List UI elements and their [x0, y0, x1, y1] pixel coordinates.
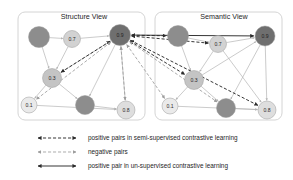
node-label: 0.8: [263, 107, 270, 113]
graph-node-m-01: 0.1: [162, 98, 178, 114]
node-label: 0.1: [166, 103, 173, 109]
graph-node-m-07: 0.7: [210, 36, 227, 53]
node-label: 0.7: [214, 41, 221, 47]
node-label: 0.9: [261, 33, 268, 39]
graph-node-s-03: 0.3: [43, 69, 62, 88]
legend-label: negative pairs: [88, 148, 128, 156]
graph-node-s-dark-bot: [76, 96, 95, 115]
legend: positive pairs in semi-supervised contra…: [38, 134, 238, 170]
graph-node-m-08: 0.8: [258, 101, 276, 119]
node-label: 0.1: [25, 102, 32, 108]
node-label: 0.7: [68, 36, 75, 42]
node-label: 0.3: [190, 77, 197, 83]
node-label: 0.3: [48, 75, 55, 81]
node-label: 0.8: [122, 107, 129, 113]
graph-node-m-dark-top: [168, 26, 189, 47]
graph-node-m-09: 0.9: [255, 26, 275, 46]
graph-node-s-01: 0.1: [21, 97, 37, 113]
graph-node-s-dark-top: [29, 27, 50, 48]
node-circle: [76, 96, 95, 115]
node-circle: [217, 99, 236, 118]
legend-semi-supervised: positive pairs in semi-supervised contra…: [38, 134, 238, 142]
node-circle: [168, 26, 189, 47]
contrastive-learning-diagram: Structure ViewSemantic View 0.70.90.30.1…: [0, 0, 293, 180]
legend-label: positive pair in un-supervised contrasti…: [88, 162, 228, 170]
node-circle: [29, 27, 50, 48]
legend-un-supervised: positive pair in un-supervised contrasti…: [38, 162, 228, 170]
graph-node-m-03: 0.3: [185, 71, 204, 90]
graph-node-s-09: 0.9: [110, 25, 131, 46]
panels-layer: Structure ViewSemantic View: [18, 12, 282, 120]
figure-stage: Structure ViewSemantic View 0.70.90.30.1…: [0, 0, 293, 180]
graph-node-s-08: 0.8: [117, 101, 135, 119]
graph-node-m-dark-bot: [217, 99, 236, 118]
graph-node-s-07: 0.7: [64, 31, 81, 48]
panel-title: Structure View: [61, 12, 108, 21]
node-label: 0.9: [116, 32, 123, 38]
legend-label: positive pairs in semi-supervised contra…: [88, 134, 238, 142]
panel-title: Semantic View: [200, 12, 248, 21]
legend-negative: negative pairs: [38, 148, 128, 156]
